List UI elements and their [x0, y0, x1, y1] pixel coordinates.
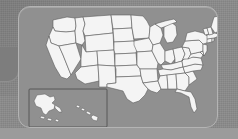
screenshot-stage: [0, 0, 238, 139]
hawaii-island-oahu: [81, 108, 85, 111]
state-rhode-island: [212, 38, 214, 42]
state-arkansas: [140, 69, 158, 83]
aleutian-island-3: [55, 119, 59, 122]
state-colorado: [97, 50, 115, 66]
state-washington: [53, 17, 76, 32]
hawaii-island-kauai: [76, 105, 80, 108]
state-minnesota: [131, 15, 150, 39]
state-alabama: [167, 74, 177, 89]
aleutian-island-2: [47, 118, 52, 121]
state-alaska: [34, 94, 55, 115]
state-wyoming: [85, 33, 114, 52]
hawaii-island-big-island: [91, 115, 98, 121]
state-north-dakota: [111, 15, 132, 29]
state-montana: [83, 15, 113, 36]
state-kansas: [115, 53, 137, 66]
state-oklahoma: [115, 65, 141, 77]
us-map-panel[interactable]: [18, 6, 218, 128]
us-map-graphic[interactable]: [19, 7, 218, 128]
hawaii-island-maui: [86, 111, 91, 115]
state-new-jersey: [203, 44, 207, 56]
bottom-band: [0, 128, 238, 139]
clipped-left-panel[interactable]: [0, 47, 19, 82]
state-nebraska: [114, 41, 137, 54]
state-florida: [175, 89, 197, 113]
aleutian-island-1: [40, 116, 45, 119]
state-south-dakota: [113, 28, 134, 42]
state-georgia: [176, 73, 189, 91]
alaska-panhandle: [55, 105, 62, 112]
state-arizona: [75, 65, 99, 84]
